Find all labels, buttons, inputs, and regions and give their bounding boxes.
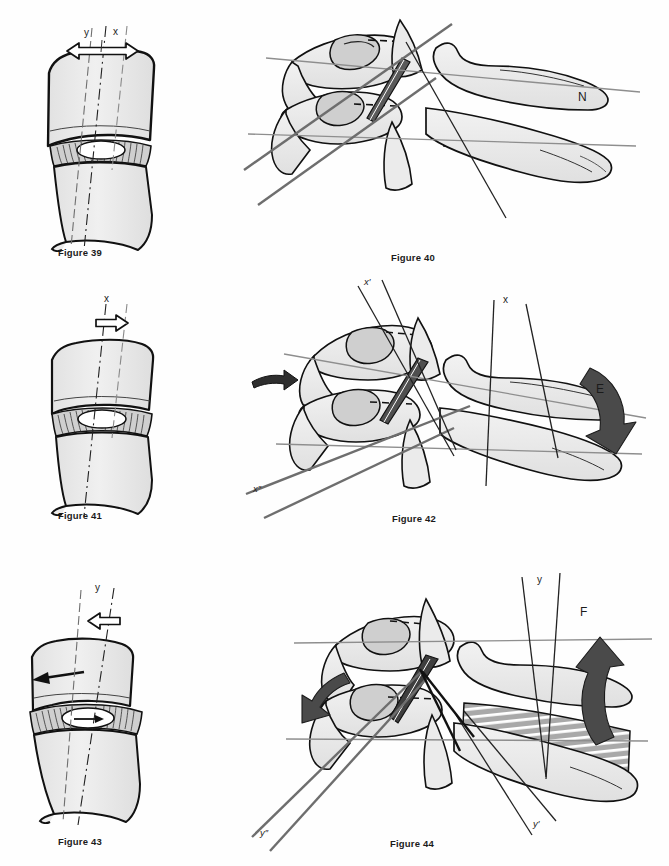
- figure-44-caption: Figure 44: [390, 838, 434, 849]
- figure-41-caption: Figure 41: [58, 510, 102, 521]
- nucleus-pulposus: [77, 141, 125, 159]
- figure-44-axis-label-y-double-prime: y″: [260, 827, 268, 838]
- figure-44-axis-label-y-prime: y′: [533, 818, 540, 829]
- figure-42-drawing: [240, 278, 669, 533]
- figure-43-caption: Figure 43: [58, 836, 102, 847]
- figure-41-panel: [0, 288, 240, 538]
- figure-41-drawing: [0, 288, 240, 538]
- figure-39-axis-label-x: x: [113, 26, 118, 37]
- figure-43-drawing: [0, 560, 240, 866]
- figure-42-panel: [240, 278, 669, 533]
- figure-40-neutral-state-label: N: [578, 90, 587, 104]
- c2-transverse-plate: [384, 122, 412, 190]
- figure-40-caption: Figure 40: [391, 252, 435, 263]
- nucleus-pulposus: [78, 410, 126, 428]
- figure-39-axis-label-y: y: [84, 27, 89, 38]
- figure-42-axis-label-x-prime: x′: [364, 276, 371, 287]
- figure-42-axis-label-x: x: [503, 294, 508, 305]
- lower-vertebral-body: [56, 433, 152, 515]
- upper-vertebral-body: [48, 49, 154, 146]
- figure-44-axis-label-y: y: [537, 574, 542, 585]
- figure-43-panel: [0, 560, 240, 866]
- figure-43-axis-label-y: y: [95, 582, 100, 593]
- figure-39-drawing: [0, 0, 240, 275]
- figure-39-caption: Figure 39: [58, 247, 102, 258]
- translation-arrow-right: [96, 315, 128, 331]
- nucleus-pulposus: [62, 708, 114, 728]
- lower-vertebral-body: [54, 163, 152, 251]
- figure-41-axis-label-x: x: [104, 293, 109, 304]
- figure-40-panel: [240, 0, 669, 275]
- figure-42-axis-label-x-double-prime: x″: [253, 483, 261, 494]
- figure-44-flexion-state-label: F: [580, 605, 587, 619]
- figure-42-extension-state-label: E: [596, 382, 604, 396]
- lower-vertebral-body: [34, 730, 140, 822]
- anterior-translation-arrow: [252, 370, 298, 390]
- translation-arrow-left: [88, 613, 120, 629]
- inferior-vertebral-mass: [426, 108, 611, 182]
- upper-vertebral-body: [52, 340, 153, 414]
- figure-42-caption: Figure 42: [392, 513, 436, 524]
- figure-39-panel: [0, 0, 240, 275]
- figure-44-panel: [240, 555, 669, 866]
- figure-44-drawing: [240, 555, 669, 866]
- figure-40-drawing: [240, 0, 669, 275]
